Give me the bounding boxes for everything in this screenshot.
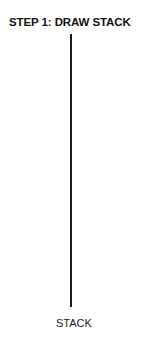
stack-line (70, 34, 72, 307)
stack-label: STACK (56, 317, 92, 329)
step-title: STEP 1: DRAW STACK (9, 16, 131, 28)
